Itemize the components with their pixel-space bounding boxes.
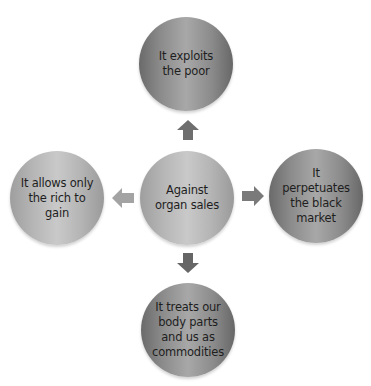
node-bottom: It treats our body parts and us as commo… bbox=[141, 283, 235, 377]
arrow-up-icon bbox=[177, 120, 199, 140]
center-node: Against organ sales bbox=[140, 151, 234, 245]
node-bottom-label: It treats our body parts and us as commo… bbox=[151, 300, 225, 360]
arrow-left-icon bbox=[112, 188, 134, 208]
arrow-right-icon bbox=[242, 186, 264, 206]
node-top: It exploits the poor bbox=[139, 17, 233, 111]
node-right: It perpetuates the black market bbox=[269, 149, 363, 243]
node-left-label: It allows only the rich to gain bbox=[20, 176, 94, 221]
node-left: It allows only the rich to gain bbox=[10, 151, 104, 245]
node-top-label: It exploits the poor bbox=[149, 49, 223, 79]
arrow-down-icon bbox=[177, 253, 199, 273]
center-node-label: Against organ sales bbox=[150, 183, 224, 213]
node-right-label: It perpetuates the black market bbox=[282, 166, 350, 226]
